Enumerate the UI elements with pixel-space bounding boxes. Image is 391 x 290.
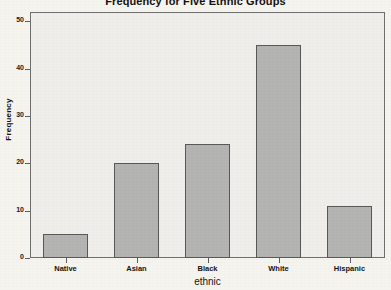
bar-asian	[114, 163, 158, 258]
y-axis-tick-label: 0	[20, 253, 24, 260]
x-axis-tick-label: Asian	[126, 264, 146, 273]
bar-black	[185, 144, 229, 258]
x-axis-tick-label: Black	[197, 264, 217, 273]
y-axis-tick-mark	[25, 116, 30, 117]
y-axis-tick-label: 20	[16, 158, 24, 165]
bar-hispanic	[327, 206, 371, 258]
x-axis-tick-mark	[137, 258, 138, 263]
y-axis-tick-label: 50	[16, 16, 24, 23]
y-axis-label: Frequency	[4, 85, 13, 155]
y-axis-tick-mark	[25, 69, 30, 70]
y-axis-tick-mark	[25, 21, 30, 22]
y-axis-tick-label: 10	[16, 206, 24, 213]
y-axis-tick-label: 30	[16, 111, 24, 118]
x-axis-tick-mark	[279, 258, 280, 263]
bar-chart: Frequency for Five Ethnic Groups 0102030…	[0, 0, 391, 290]
x-axis-tick-mark	[208, 258, 209, 263]
x-axis-tick-mark	[66, 258, 67, 263]
y-axis-tick-mark	[25, 163, 30, 164]
x-axis-tick-mark	[350, 258, 351, 263]
y-axis-tick-label: 40	[16, 64, 24, 71]
x-axis-tick-labels: NativeAsianBlackWhiteHispanic	[30, 264, 385, 276]
x-axis-label: ethnic	[30, 276, 385, 287]
bar-white	[256, 45, 300, 258]
chart-title: Frequency for Five Ethnic Groups	[0, 0, 391, 8]
y-axis-tick-mark	[25, 211, 30, 212]
x-axis-tick-label: Native	[54, 264, 77, 273]
bar-native	[43, 234, 87, 258]
x-axis-tick-label: White	[268, 264, 288, 273]
x-axis-tick-label: Hispanic	[334, 264, 365, 273]
